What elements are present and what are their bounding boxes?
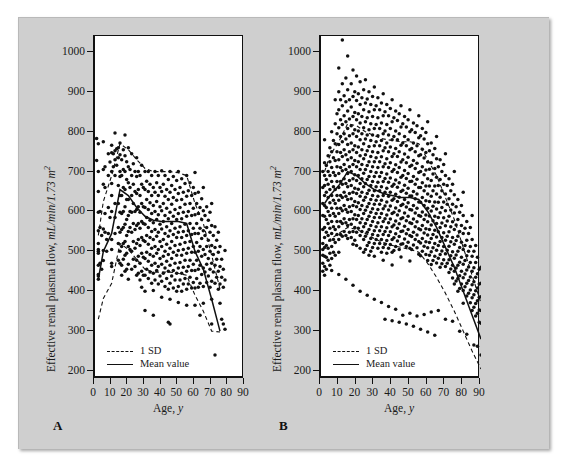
x-axis-title-units: y [409,402,414,414]
x-tick-label: 60 [187,386,199,398]
x-tick-mark [210,378,211,384]
legend-label: 1 SD [140,345,161,356]
x-tick-label: 50 [171,386,183,398]
x-tick-mark [426,378,427,384]
y-tick-mark [87,250,93,251]
x-tick-label: 20 [121,386,133,398]
x-tick-mark [176,378,177,384]
x-tick-mark [461,378,462,384]
x-tick-mark [408,378,409,384]
y-tick-mark [87,210,93,211]
y-tick-mark [313,210,319,211]
solid-line-icon [333,360,359,368]
x-tick-mark [110,378,111,384]
x-tick-mark [226,378,227,384]
x-tick-mark [193,378,194,384]
y-tick-mark [87,290,93,291]
y-axis-title-units: mL/min/1.73 m2 [271,166,283,240]
y-tick-mark [313,290,319,291]
y-tick-mark [313,131,319,132]
x-tick-label: 90 [473,386,485,398]
plot-data-layer [321,36,481,379]
x-tick-mark [390,378,391,384]
x-tick-label: 40 [154,386,166,398]
x-tick-mark [143,378,144,384]
figure-container: 1 SDMean value20030040050060070080090010… [0,0,566,469]
y-tick-label: 1000 [51,45,85,57]
legend-label: Mean value [140,358,189,369]
x-tick-label: 80 [221,386,233,398]
y-tick-mark [87,370,93,371]
legend: 1 SDMean value [103,341,195,373]
y-axis-title: Effective renal plasma flow, mL/min/1.73… [43,166,57,372]
y-tick-mark [87,171,93,172]
y-tick-mark [313,51,319,52]
y-tick-mark [313,91,319,92]
x-tick-label: 20 [349,386,361,398]
x-tick-mark [355,378,356,384]
y-tick-label: 800 [51,125,85,137]
x-tick-mark [372,378,373,384]
legend: 1 SDMean value [329,341,421,373]
x-tick-mark [319,378,320,384]
y-tick-label: 1000 [277,45,311,57]
x-tick-mark [126,378,127,384]
x-tick-label: 30 [137,386,149,398]
y-tick-mark [87,131,93,132]
x-tick-mark [160,378,161,384]
legend-item: 1 SD [333,344,415,357]
x-axis-title: Age, y [384,402,414,414]
x-tick-label: 0 [316,386,322,398]
x-axis-title-units: y [178,402,183,414]
x-axis-title: Age, y [153,402,183,414]
y-tick-mark [313,250,319,251]
panel-letter: B [279,418,288,434]
x-tick-mark [243,378,244,384]
dashed-line-icon [333,347,359,355]
dashed-line-icon [107,347,133,355]
legend-item: 1 SD [107,344,189,357]
x-tick-label: 10 [331,386,343,398]
x-tick-mark [479,378,480,384]
y-tick-mark [87,330,93,331]
y-tick-mark [313,171,319,172]
x-tick-label: 90 [237,386,249,398]
y-axis-title-text: Effective renal plasma flow, [271,240,283,372]
x-tick-label: 70 [204,386,216,398]
x-tick-label: 60 [420,386,432,398]
y-tick-mark [87,51,93,52]
legend-item: Mean value [333,357,415,370]
x-tick-label: 40 [384,386,396,398]
y-tick-mark [313,370,319,371]
x-tick-mark [443,378,444,384]
plot-data-layer [95,36,245,379]
y-tick-label: 900 [277,85,311,97]
x-tick-label: 50 [402,386,414,398]
x-tick-label: 0 [90,386,96,398]
legend-label: Mean value [366,358,415,369]
panel-letter: A [53,418,62,434]
x-tick-label: 30 [367,386,379,398]
plot-frame: 1 SDMean value [319,35,479,378]
y-tick-mark [313,330,319,331]
y-axis-title-text: Effective renal plasma flow, [45,240,57,372]
y-axis-title-units: mL/min/1.73 m2 [45,166,57,240]
figure-plate: 1 SDMean value20030040050060070080090010… [18,17,549,449]
x-tick-label: 70 [438,386,450,398]
x-tick-mark [93,378,94,384]
x-tick-label: 80 [455,386,467,398]
y-tick-label: 800 [277,125,311,137]
y-axis-title: Effective renal plasma flow, mL/min/1.73… [269,166,283,372]
legend-item: Mean value [107,357,189,370]
y-tick-mark [87,91,93,92]
y-tick-label: 900 [51,85,85,97]
x-tick-label: 10 [104,386,116,398]
plot-frame: 1 SDMean value [93,35,243,378]
x-tick-mark [337,378,338,384]
solid-line-icon [107,360,133,368]
legend-label: 1 SD [366,345,387,356]
